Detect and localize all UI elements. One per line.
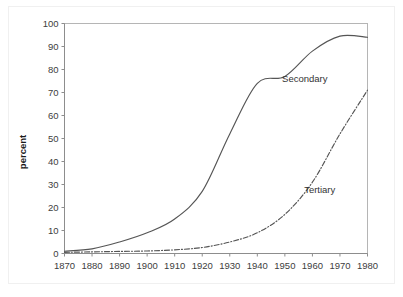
x-tick-label: 1870 — [54, 260, 75, 271]
y-tick-label: 70 — [48, 87, 59, 98]
x-tick-label: 1900 — [137, 260, 158, 271]
y-axis-ticks: 0102030405060708090100 — [43, 18, 65, 259]
series-annotations: SecondaryTertiary — [282, 73, 335, 194]
x-tick-label: 1970 — [329, 260, 350, 271]
y-tick-label: 30 — [48, 179, 59, 190]
y-tick-label: 50 — [48, 133, 59, 144]
x-tick-label: 1940 — [247, 260, 268, 271]
y-tick-label: 20 — [48, 202, 59, 213]
x-tick-label: 1960 — [302, 260, 323, 271]
x-tick-label: 1880 — [81, 260, 102, 271]
series-line-tertiary — [65, 90, 368, 252]
series-label-tertiary: Tertiary — [304, 184, 335, 195]
y-tick-label: 90 — [48, 41, 59, 52]
figure-container: 0102030405060708090100 18701880189019001… — [0, 0, 403, 297]
series-line-secondary — [65, 35, 368, 251]
x-tick-label: 1930 — [219, 260, 240, 271]
x-tick-label: 1890 — [109, 260, 130, 271]
x-tick-label: 1950 — [274, 260, 295, 271]
plot-frame — [65, 24, 368, 254]
line-chart: 0102030405060708090100 18701880189019001… — [0, 0, 403, 297]
x-axis-ticks: 1870188018901900191019201930194019501960… — [54, 254, 378, 271]
y-tick-label: 40 — [48, 156, 59, 167]
x-tick-label: 1980 — [357, 260, 378, 271]
y-tick-label: 10 — [48, 225, 59, 236]
x-tick-label: 1920 — [192, 260, 213, 271]
series-label-secondary: Secondary — [282, 73, 328, 84]
y-tick-label: 0 — [53, 248, 58, 259]
y-axis-title: percent — [17, 134, 28, 169]
y-tick-label: 60 — [48, 110, 59, 121]
y-tick-label: 100 — [43, 18, 59, 29]
y-tick-label: 80 — [48, 64, 59, 75]
data-series-group — [65, 35, 368, 252]
x-tick-label: 1910 — [164, 260, 185, 271]
